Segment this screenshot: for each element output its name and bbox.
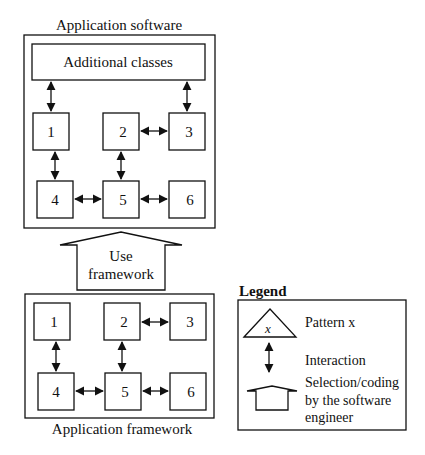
box-label: 3 [186, 314, 194, 330]
use-framework-line1: Use [109, 248, 133, 264]
box-label: 5 [121, 384, 129, 400]
legend-title: Legend [239, 283, 287, 299]
use-framework-line2: framework [88, 266, 154, 282]
framework-diagram: Application software Additional classes … [0, 0, 425, 455]
selection-label-line1: Selection/coding [305, 375, 399, 390]
box-label: 5 [119, 192, 127, 208]
box-label: 2 [120, 314, 128, 330]
interaction-label: Interaction [305, 353, 366, 368]
box-label: 2 [119, 124, 127, 140]
pattern-symbol: x [264, 321, 271, 336]
box-label: 4 [52, 384, 60, 400]
selection-house-icon [247, 386, 297, 410]
box-label: 6 [187, 384, 195, 400]
application-framework-title: Application framework [52, 421, 193, 437]
box-label: 4 [51, 192, 59, 208]
selection-label-line2: by the software [305, 393, 391, 408]
box-label: 6 [186, 192, 194, 208]
additional-classes-label: Additional classes [63, 54, 173, 70]
application-software-title: Application software [56, 17, 183, 33]
box-label: 3 [185, 124, 193, 140]
selection-label-line3: engineer [305, 410, 354, 425]
box-label: 1 [50, 314, 58, 330]
box-label: 1 [47, 124, 55, 140]
pattern-label: Pattern x [305, 315, 355, 330]
